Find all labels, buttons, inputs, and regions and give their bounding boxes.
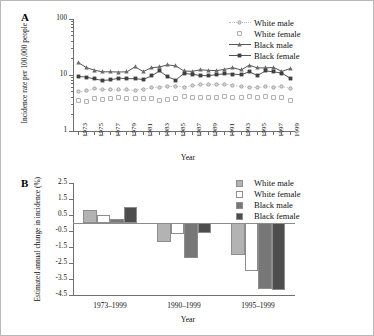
panel-b-legend-label: White female [254, 189, 301, 199]
panel-a-data-point [100, 69, 105, 74]
panel-b-category-label: 1990–1999 [149, 301, 219, 310]
panel-a-legend-item: Black female [229, 50, 301, 61]
panel-a-data-point [279, 71, 284, 76]
panel-a-data-point [206, 95, 211, 100]
panel-a-data-point [116, 87, 121, 92]
panel-b-y-tick [69, 215, 74, 216]
panel-a-data-point [141, 96, 146, 101]
panel-a-legend-label: White male [254, 18, 294, 28]
panel-b-bar [258, 223, 272, 289]
panel-a-data-point [263, 68, 268, 73]
panel-b-legend-item: White male [229, 177, 301, 188]
panel-a-data-point [165, 97, 170, 102]
panel-a-data-point [230, 95, 235, 100]
panel-a-data-point [279, 84, 284, 89]
panel-a-data-point [288, 66, 293, 71]
panel-a-data-point [116, 76, 121, 81]
panel-a-data-point [76, 89, 81, 94]
panel-a-x-tick [281, 131, 282, 135]
panel-a-data-point [214, 72, 219, 77]
panel-b-y-tick-label: -1.5 [41, 242, 67, 250]
panel-a-data-point [133, 88, 138, 93]
panel-a-data-point [182, 85, 187, 90]
panel-a-x-tick [118, 131, 119, 135]
panel-b-y-tick [69, 199, 74, 200]
panel-a-data-point [239, 84, 244, 89]
panel-a-data-point [271, 69, 276, 74]
panel-a-x-tick [167, 131, 168, 135]
panel-a-data-point [279, 95, 284, 100]
panel-a-x-tick [86, 131, 87, 135]
panel-b-y-tick-label: 1.5 [41, 194, 67, 202]
panel-b-bar [171, 223, 185, 234]
panel-a-data-point [222, 71, 227, 76]
panel-b-bar [97, 215, 111, 223]
panel-a-data-point [76, 74, 81, 79]
panel-a-data-point [84, 99, 89, 104]
panel-a-data-point [133, 96, 138, 101]
panel-b-y-tick [69, 263, 74, 264]
panel-b-legend-label: Black male [254, 200, 293, 210]
panel-a-x-tick [241, 131, 242, 135]
panel-a-data-point [141, 87, 146, 92]
panel-b-bar [124, 207, 138, 223]
panel-a-data-point [108, 69, 113, 74]
panel-a-data-point [190, 95, 195, 100]
panel-a-data-point [206, 68, 211, 73]
panel-a-data-point [133, 76, 138, 81]
panel-a-data-point [271, 95, 276, 100]
panel-b-bar [245, 223, 259, 271]
panel-a-legend-label: Black female [254, 51, 300, 61]
panel-a-data-point [271, 85, 276, 90]
panel-a-data-point [92, 68, 97, 73]
panel-a-data-point [263, 94, 268, 99]
panel-a-data-point [165, 84, 170, 89]
panel-b-legend-key [229, 210, 251, 221]
panel-b-bar [198, 223, 212, 233]
panel-a-x-tick [78, 131, 79, 135]
panel-a-y-tick-label: 10 [39, 70, 67, 78]
panel-b-letter: B [21, 177, 28, 189]
panel-b-legend: White maleWhite femaleBlack maleBlack fe… [229, 177, 301, 221]
panel-a-data-point [288, 76, 293, 81]
panel-a-data-point [157, 85, 162, 90]
panel-a-data-point [76, 60, 81, 65]
panel-b-legend-key [229, 199, 251, 210]
panel-a-data-point [92, 86, 97, 91]
panel-b-bar [231, 223, 245, 255]
panel-a-data-point [124, 69, 129, 74]
panel-a-x-tick [200, 131, 201, 135]
panel-a-data-point [84, 88, 89, 93]
panel-a-x-tick [151, 131, 152, 135]
panel-a-data-point [206, 82, 211, 87]
legend-marker-icon [237, 20, 242, 25]
panel-a-data-point [116, 70, 121, 75]
panel-a-data-point [100, 97, 105, 102]
panel-b-bar [184, 223, 198, 258]
panel-b-y-tick-label: -4.5 [41, 290, 67, 298]
legend-swatch-icon [236, 202, 243, 209]
panel-a-data-point [157, 68, 162, 73]
panel-a-data-point [247, 85, 252, 90]
panel-a-data-point [173, 84, 178, 89]
panel-a-data-point [255, 85, 260, 90]
panel-a-data-point [288, 86, 293, 91]
panel-a-data-point [157, 98, 162, 103]
panel-b-y-tick [69, 247, 74, 248]
panel-a-data-point [108, 96, 113, 101]
panel-b-x-axis [73, 295, 295, 296]
panel-a-x-tick [265, 131, 266, 135]
panel-a-legend-label: Black male [254, 40, 293, 50]
panel-b-y-tick-label: -0.5 [41, 226, 67, 234]
panel-b-y-tick [69, 231, 74, 232]
panel-b-y-tick-label: 2.5 [41, 178, 67, 186]
panel-a-data-point [133, 64, 138, 69]
panel-a-data-point [165, 62, 170, 67]
panel-a-legend-item: Black male [229, 39, 301, 50]
panel-a-data-point [190, 72, 195, 77]
legend-swatch-icon [236, 180, 243, 187]
panel-a-data-point [149, 85, 154, 90]
panel-a-data-point [222, 94, 227, 99]
panel-a-data-point [222, 82, 227, 87]
panel-a-y-tick-label: 1 [39, 126, 67, 134]
